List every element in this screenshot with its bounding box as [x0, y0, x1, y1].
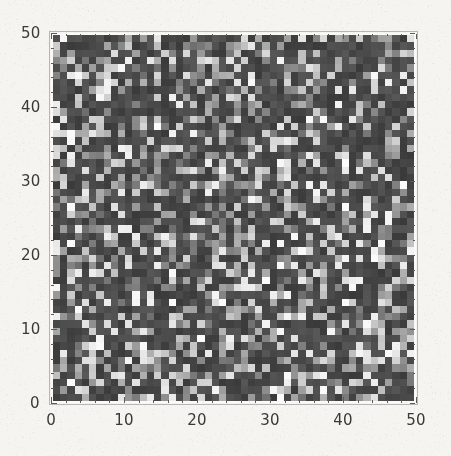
axis-tick [372, 400, 373, 403]
axis-tick [372, 34, 373, 36]
axis-tick [51, 299, 54, 300]
axis-tick [51, 359, 54, 360]
axis-tick [413, 388, 415, 389]
axis-tick [255, 400, 256, 403]
axis-tick [413, 137, 415, 138]
axis-tick [51, 151, 54, 152]
axis-tick [270, 397, 271, 403]
axis-tick [343, 397, 344, 403]
x-tick-label-50: 50 [406, 413, 426, 428]
axis-tick [124, 397, 125, 403]
axis-tick [51, 33, 57, 34]
axis-tick [285, 34, 286, 36]
x-tick-label-0: 0 [46, 413, 56, 428]
axis-tick [168, 34, 169, 36]
y-tick-label-10: 10 [21, 322, 41, 337]
axis-tick [182, 34, 183, 36]
axis-tick [51, 255, 57, 256]
axis-tick [416, 34, 417, 39]
axis-tick [413, 314, 415, 315]
axis-tick [328, 400, 329, 403]
x-tick-label-40: 40 [333, 413, 353, 428]
axis-tick [51, 48, 54, 49]
axis-tick [413, 77, 415, 78]
axis-tick [51, 181, 57, 182]
axis-tick [413, 211, 415, 212]
x-tick-label-30: 30 [260, 413, 280, 428]
axis-tick [410, 107, 415, 108]
axis-tick [401, 400, 402, 403]
axis-tick [51, 344, 54, 345]
axis-tick [387, 34, 388, 36]
axis-tick [95, 400, 96, 403]
axis-tick [51, 225, 54, 226]
axis-tick [51, 314, 54, 315]
axis-tick [314, 34, 315, 36]
axis-tick [255, 34, 256, 36]
axis-tick [51, 63, 54, 64]
axis-tick [139, 400, 140, 403]
y-tick-label-20: 20 [21, 248, 41, 263]
axis-tick [299, 34, 300, 36]
axis-tick [413, 344, 415, 345]
axis-tick [51, 403, 57, 404]
axis-tick [153, 400, 154, 403]
axis-tick [80, 34, 81, 36]
axis-tick [212, 400, 213, 403]
axis-tick [51, 211, 54, 212]
axis-tick [401, 34, 402, 36]
axis-tick [153, 34, 154, 36]
axis-tick [413, 270, 415, 271]
axis-tick [197, 397, 198, 403]
axis-tick [410, 403, 415, 404]
axis-tick [413, 122, 415, 123]
axis-tick [413, 285, 415, 286]
axis-tick [139, 34, 140, 36]
axis-tick [241, 400, 242, 403]
axis-tick [314, 400, 315, 403]
axis-tick [413, 48, 415, 49]
heatmap-cells [53, 35, 414, 401]
matrix-plot-figure: 0102030405001020304050 [0, 0, 451, 456]
axis-tick [95, 34, 96, 36]
y-tick-label-30: 30 [21, 174, 41, 189]
axis-tick [124, 34, 125, 39]
axis-tick [51, 240, 54, 241]
heatmap-plot-area [51, 33, 416, 403]
axis-tick [413, 63, 415, 64]
axis-tick [226, 400, 227, 403]
axis-tick [51, 388, 54, 389]
axis-tick [413, 225, 415, 226]
axis-tick [51, 166, 54, 167]
axis-tick [387, 400, 388, 403]
axis-tick [285, 400, 286, 403]
axis-tick [328, 34, 329, 36]
axis-tick [182, 400, 183, 403]
y-tick-label-40: 40 [21, 100, 41, 115]
axis-tick [416, 397, 417, 403]
axis-tick [358, 34, 359, 36]
axis-tick [358, 400, 359, 403]
x-tick-label-10: 10 [114, 413, 134, 428]
axis-tick [51, 270, 54, 271]
x-tick-label-20: 20 [187, 413, 207, 428]
axis-tick [343, 34, 344, 39]
y-tick-label-0: 0 [30, 396, 40, 411]
axis-tick [51, 329, 57, 330]
axis-tick [80, 400, 81, 403]
axis-tick [410, 181, 415, 182]
axis-tick [51, 34, 52, 39]
axis-tick [413, 166, 415, 167]
axis-tick [51, 122, 54, 123]
y-tick-label-50: 50 [21, 26, 41, 41]
axis-tick [413, 196, 415, 197]
axis-tick [51, 77, 54, 78]
axis-tick [299, 400, 300, 403]
axis-tick [197, 34, 198, 39]
axis-tick [212, 34, 213, 36]
axis-tick [51, 107, 57, 108]
axis-tick [410, 329, 415, 330]
axis-tick [270, 34, 271, 39]
axis-tick [51, 373, 54, 374]
axis-tick [51, 92, 54, 93]
